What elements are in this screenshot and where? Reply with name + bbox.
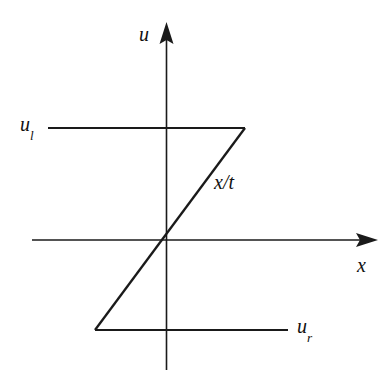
x-axis-group <box>32 233 378 247</box>
x-axis-label: x <box>357 255 366 275</box>
u-left-state-label: ul <box>20 114 34 134</box>
u-axis-label: u <box>139 24 149 44</box>
u-right-state-label: ur <box>297 316 312 336</box>
figure-canvas: u x ul ur x/t <box>0 0 390 386</box>
u-axis-group <box>160 22 174 370</box>
u-right-subscript: r <box>307 330 312 345</box>
u-left-subscript: l <box>30 128 34 143</box>
u-left-base: u <box>20 113 30 135</box>
u-right-base: u <box>297 315 307 337</box>
solution-profile-group <box>48 128 288 330</box>
diagram-svg <box>0 0 390 386</box>
fan-diagonal-line <box>95 128 245 330</box>
similarity-variable-label: x/t <box>214 172 234 192</box>
